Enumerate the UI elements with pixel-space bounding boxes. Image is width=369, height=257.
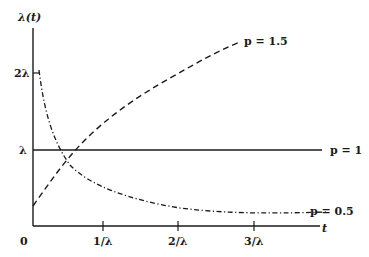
curve-label-p05: p = 0.5 [310, 206, 354, 217]
curve-label-p15: p = 1.5 [244, 36, 288, 47]
origin-label: 0 [20, 236, 28, 247]
x-tick-label-1: 1/λ [93, 236, 112, 247]
x-tick-label-2: 2/λ [168, 236, 187, 247]
y-tick-label-lambda: λ [19, 145, 27, 156]
hazard-rate-chart [0, 0, 369, 257]
x-tick-label-3: 3/λ [244, 236, 263, 247]
curve-p05 [39, 70, 326, 213]
curve-p15 [33, 42, 240, 206]
curve-label-p1: p = 1 [330, 145, 362, 156]
y-tick-label-2lambda: 2λ [14, 68, 29, 79]
y-axis-label: λ(t) [18, 12, 41, 23]
x-axis-label: t [322, 223, 327, 234]
